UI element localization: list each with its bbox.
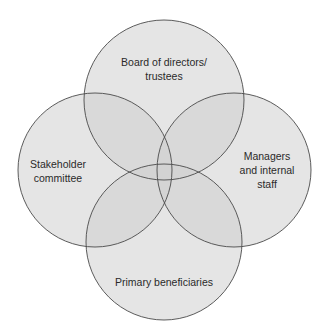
label-line: Primary beneficiaries [115,275,213,289]
label-managers-staff: Managers and internal staff [240,149,295,191]
label-board-of-directors: Board of directors/ trustees [121,55,207,83]
label-line: and internal [240,163,295,177]
circle-primary-beneficiaries [86,164,242,320]
label-line: staff [240,177,295,191]
label-line: Managers [240,149,295,163]
label-line: committee [30,171,86,185]
label-stakeholder-committee: Stakeholder committee [30,157,86,185]
label-line: Stakeholder [30,157,86,171]
label-line: trustees [121,69,207,83]
label-primary-beneficiaries: Primary beneficiaries [115,275,213,289]
label-line: Board of directors/ [121,55,207,69]
